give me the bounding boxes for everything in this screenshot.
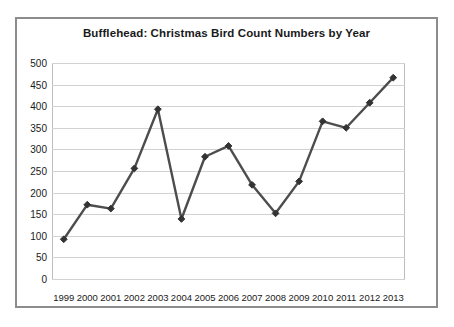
x-axis-tick-label: 2009 — [289, 292, 310, 303]
x-axis-tick-label: 2010 — [312, 292, 333, 303]
y-axis-tick-label: 350 — [30, 122, 47, 133]
x-axis-tick-label: 2004 — [171, 292, 192, 303]
series-line — [64, 78, 393, 240]
y-axis-tick-label: 200 — [30, 187, 47, 198]
data-series-line — [52, 63, 405, 279]
data-point-marker — [178, 216, 185, 223]
x-axis-tick-label: 2005 — [194, 292, 215, 303]
x-axis-tick-label: 2000 — [77, 292, 98, 303]
y-axis-tick-label: 450 — [30, 79, 47, 90]
y-axis-tick-label: 500 — [30, 58, 47, 69]
x-axis-tick-label: 1999 — [53, 292, 74, 303]
y-axis-tick-label: 250 — [30, 166, 47, 177]
y-axis-tick-label: 100 — [30, 230, 47, 241]
y-axis-tick-label: 150 — [30, 209, 47, 220]
gridline — [52, 279, 405, 280]
x-axis-tick-label: 2012 — [359, 292, 380, 303]
x-axis-tick-label: 2011 — [336, 292, 356, 303]
x-axis-tick-label: 2002 — [124, 292, 145, 303]
data-point-marker — [319, 118, 326, 125]
x-axis-tick-label: 2008 — [265, 292, 286, 303]
x-axis-tick-label: 2006 — [218, 292, 239, 303]
plot-area: 500450400350300250200150100500 199920002… — [52, 63, 405, 279]
x-axis-tick-label: 2001 — [100, 292, 121, 303]
y-axis-tick-label: 300 — [30, 144, 47, 155]
chart-title: Bufflehead: Christmas Bird Count Numbers… — [17, 27, 436, 39]
x-axis-tick-label: 2007 — [241, 292, 262, 303]
x-axis-tick-label: 2013 — [383, 292, 404, 303]
x-axis-tick-label: 2003 — [147, 292, 168, 303]
y-axis-tick-label: 50 — [36, 252, 47, 263]
data-point-marker — [155, 106, 162, 113]
chart-frame: Bufflehead: Christmas Bird Count Numbers… — [15, 17, 438, 308]
y-axis-tick-label: 400 — [30, 101, 47, 112]
y-axis-tick-label: 0 — [41, 274, 47, 285]
